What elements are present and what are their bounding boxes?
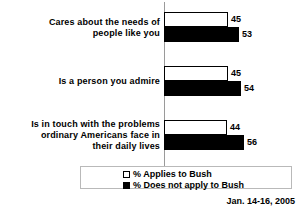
category-label: Cares about the needs of people like you <box>0 17 160 39</box>
legend-swatch-filled-square-icon <box>123 182 130 189</box>
bar-not-applies[interactable] <box>164 27 239 42</box>
chart-legend: % Applies to Bush % Does not apply to Bu… <box>80 166 292 189</box>
bar-value-not-applies: 54 <box>244 83 254 93</box>
bar-value-not-applies: 53 <box>242 29 252 39</box>
legend-label-applies: % Applies to Bush <box>133 169 212 179</box>
bar-applies[interactable] <box>164 66 228 81</box>
category-label-line: Cares about the needs of <box>0 17 160 28</box>
category-label-line: Is a person you admire <box>0 76 160 87</box>
category-label-line: Is in touch with the problems <box>0 119 160 130</box>
bar-value-not-applies: 56 <box>247 137 257 147</box>
category-label: Is a person you admire <box>0 76 160 87</box>
category-label-line: people like you <box>0 28 160 39</box>
poll-bar-chart: Cares about the needs of people like you… <box>0 0 306 217</box>
bar-applies[interactable] <box>164 12 228 27</box>
legend-items: % Applies to Bush % Does not apply to Bu… <box>123 169 244 191</box>
survey-date-footer: Jan. 14-16, 2005 <box>226 196 295 206</box>
legend-label-not-applies: % Does not apply to Bush <box>133 180 244 190</box>
legend-item-applies[interactable]: % Applies to Bush <box>123 169 244 179</box>
category-label-line: ordinary Americans face in <box>0 130 160 141</box>
bar-applies[interactable] <box>164 120 227 135</box>
bar-not-applies[interactable] <box>164 135 244 150</box>
bar-value-applies: 45 <box>231 68 241 78</box>
legend-item-not-applies[interactable]: % Does not apply to Bush <box>123 180 244 190</box>
bar-not-applies[interactable] <box>164 81 241 96</box>
legend-swatch-open-square-icon <box>123 171 130 178</box>
category-label-line: their daily lives <box>0 141 160 152</box>
bar-value-applies: 45 <box>231 14 241 24</box>
category-label: Is in touch with the problems ordinary A… <box>0 119 160 152</box>
bar-value-applies: 44 <box>230 122 240 132</box>
